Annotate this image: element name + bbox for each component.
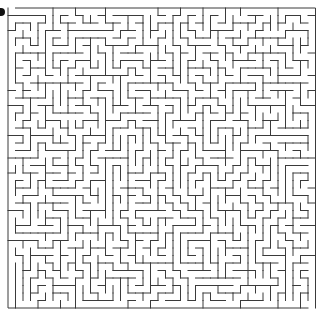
maze-grid: [0, 0, 324, 312]
maze-walls: [8, 8, 316, 308]
